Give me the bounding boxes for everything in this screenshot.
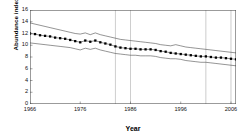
data-point-marker — [74, 40, 76, 42]
y-tick-label: 6 — [12, 66, 28, 72]
y-tick-label: 12 — [12, 31, 28, 37]
plot-area — [30, 10, 236, 104]
data-point-marker — [159, 50, 161, 52]
data-point-marker — [89, 41, 91, 43]
data-point-marker — [144, 48, 146, 50]
data-point-marker — [205, 55, 207, 57]
x-tick-label: 1986 — [115, 107, 145, 113]
data-point-marker — [210, 56, 212, 58]
x-tick-label: 1976 — [65, 107, 95, 113]
y-axis-tick-labels: 0246810121416 — [8, 10, 28, 104]
data-point-marker — [200, 55, 202, 57]
data-point-marker — [175, 52, 177, 54]
data-point-marker — [59, 37, 61, 39]
y-tick-label: 8 — [12, 54, 28, 60]
x-axis-label: Year — [30, 125, 236, 132]
data-point-marker — [34, 33, 36, 35]
x-axis-tick-labels: 19661976198619962006 — [30, 106, 236, 116]
data-point-marker — [235, 58, 236, 60]
y-tick-label: 10 — [12, 42, 28, 48]
data-point-marker — [195, 55, 197, 57]
data-point-marker — [109, 44, 111, 46]
data-point-marker — [44, 35, 46, 37]
data-point-marker — [170, 52, 172, 54]
data-point-marker — [54, 36, 56, 38]
data-point-marker — [104, 42, 106, 44]
chart-figure: Abundance index 0246810121416 1966197619… — [0, 0, 242, 137]
data-point-marker — [124, 47, 126, 49]
data-point-marker — [39, 34, 41, 36]
data-point-marker — [79, 41, 81, 43]
data-point-marker — [185, 54, 187, 56]
plot-svg — [30, 10, 236, 104]
series-line-lower — [30, 43, 236, 66]
data-point-marker — [119, 46, 121, 48]
data-point-marker — [190, 54, 192, 56]
data-point-marker — [129, 48, 131, 50]
x-tick-label: 1996 — [166, 107, 196, 113]
y-tick-label: 4 — [12, 78, 28, 84]
y-tick-label: 14 — [12, 19, 28, 25]
data-point-marker — [149, 48, 151, 50]
data-point-marker — [180, 53, 182, 55]
data-point-marker — [165, 51, 167, 53]
x-tick-label: 1966 — [15, 107, 45, 113]
data-point-marker — [99, 41, 101, 43]
y-tick-label: 2 — [12, 89, 28, 95]
data-point-marker — [94, 39, 96, 41]
data-point-marker — [49, 35, 51, 37]
y-tick-label: 16 — [12, 7, 28, 13]
data-point-marker — [215, 56, 217, 58]
data-point-marker — [84, 39, 86, 41]
data-point-marker — [64, 38, 66, 40]
x-tick-label: 2006 — [216, 107, 242, 113]
data-point-marker — [139, 48, 141, 50]
data-point-marker — [225, 57, 227, 59]
data-point-marker — [69, 39, 71, 41]
data-point-marker — [134, 48, 136, 50]
data-point-marker — [154, 49, 156, 51]
data-point-marker — [114, 45, 116, 47]
data-point-marker — [230, 58, 232, 60]
data-point-marker — [220, 56, 222, 58]
